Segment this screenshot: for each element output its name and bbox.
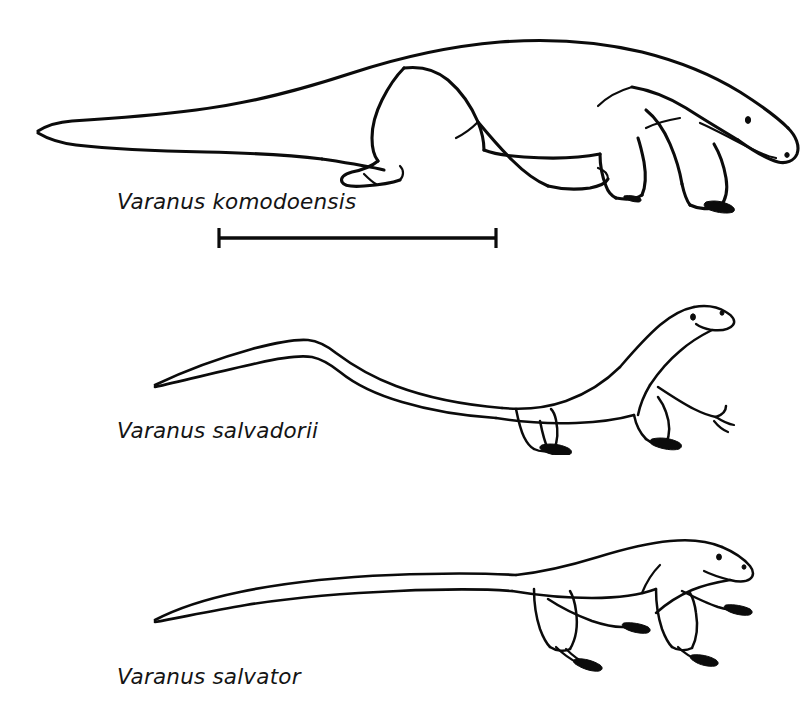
claw-salvator-hind (573, 659, 602, 671)
scale-bar (0, 220, 812, 260)
species-label-komodoensis: Varanus komodoensis (117, 189, 356, 214)
figure-root: Varanus komodoensis (0, 0, 812, 709)
claw-salvadorii-front (650, 438, 682, 450)
nostril-salvadorii (720, 311, 724, 315)
claw-salvator-front (690, 655, 718, 667)
nostril-komodoensis (785, 153, 789, 158)
species-label-salvadorii: Varanus salvadorii (117, 418, 318, 443)
eye-salvadorii (691, 314, 696, 320)
claw-komodoensis-front (704, 201, 734, 213)
claw-salvadorii-hind (540, 444, 572, 455)
species-label-salvator: Varanus salvator (117, 664, 301, 689)
claw-salvator-front-far (724, 605, 752, 616)
nostril-salvator (742, 565, 746, 569)
eye-komodoensis (745, 117, 750, 124)
eye-salvator (717, 554, 722, 560)
claw-salvator-hind-far (622, 623, 650, 634)
